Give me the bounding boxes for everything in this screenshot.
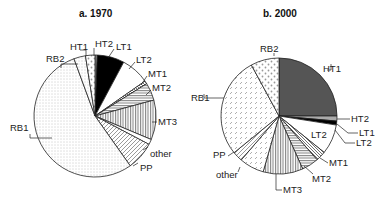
label-a-mt2: MT2 xyxy=(152,82,171,93)
label-a-other: other xyxy=(150,148,172,159)
label-a-ht2: HT2 xyxy=(95,38,113,49)
label-a-pp: PP xyxy=(140,162,153,173)
label-a-lt1: LT1 xyxy=(116,41,132,52)
label-b-mt2: MT2 xyxy=(312,173,331,184)
label-a-rb2: RB2 xyxy=(46,53,64,64)
label-b-mt1: MT1 xyxy=(329,157,348,168)
label-b-pp: PP xyxy=(213,149,226,160)
label-a-lt2: LT2 xyxy=(136,54,152,65)
label-a-ht1: HT1 xyxy=(70,41,88,52)
pie-charts: HT1 HT2 LT1 LT2 MT1 MT2 MT3 other PP RB1… xyxy=(0,0,386,207)
pie-chart-2000 xyxy=(221,58,337,174)
label-a-mt3: MT3 xyxy=(158,116,177,127)
label-b-mt3: MT3 xyxy=(283,184,302,195)
label-b-lt2-inner: LT2 xyxy=(311,129,327,140)
pie-chart-1970 xyxy=(34,55,156,177)
label-b-ht1: HT1 xyxy=(323,63,341,74)
label-a-rb1: RB1 xyxy=(10,122,28,133)
label-b-lt2: LT2 xyxy=(356,137,372,148)
label-b-rb1: RB1 xyxy=(191,92,209,103)
label-b-ht2: HT2 xyxy=(351,113,369,124)
label-b-rb2: RB2 xyxy=(260,43,278,54)
label-a-mt1: MT1 xyxy=(148,68,167,79)
label-b-other: other xyxy=(216,169,238,180)
